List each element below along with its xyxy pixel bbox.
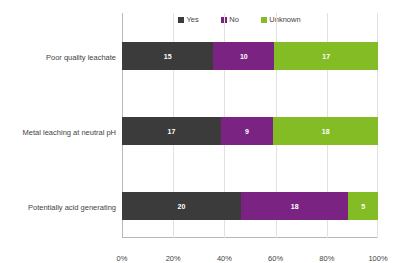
bar-segment-no-0[interactable]: 10 [213, 42, 274, 70]
x-axis-tick-4: 80% [319, 254, 334, 263]
bar-segment-unknown-1[interactable]: 18 [273, 117, 378, 145]
bar-segment-no-2[interactable]: 18 [241, 192, 348, 220]
bar-segment-yes-2[interactable]: 20 [122, 192, 241, 220]
x-axis-tick-2: 40% [217, 254, 232, 263]
x-axis-tick-1: 20% [166, 254, 181, 263]
plot-area: 15 10 17 17 9 18 20 18 5 0% 20% 40% 60% … [122, 13, 378, 238]
x-axis-tick-0: 0% [117, 254, 128, 263]
bar-segment-no-1[interactable]: 9 [221, 117, 273, 145]
y-axis-label-0: Poor quality leachate [0, 54, 116, 62]
bar-segment-unknown-2[interactable]: 5 [348, 192, 378, 220]
bar-segment-yes-0[interactable]: 15 [122, 42, 213, 70]
y-axis-label-1: Metal leaching at neutral pH [0, 129, 116, 137]
x-axis-tick-5: 100% [368, 254, 387, 263]
table-row-bar-0: 15 10 17 [122, 42, 378, 70]
x-axis-line [122, 237, 378, 238]
y-axis-label-2: Potentially acid generating [0, 204, 116, 212]
bar-segment-yes-1[interactable]: 17 [122, 117, 221, 145]
table-row-bar-2: 20 18 5 [122, 192, 378, 220]
table-row-bar-1: 17 9 18 [122, 117, 378, 145]
bar-segment-unknown-0[interactable]: 17 [274, 42, 378, 70]
x-axis-tick-3: 60% [268, 254, 283, 263]
